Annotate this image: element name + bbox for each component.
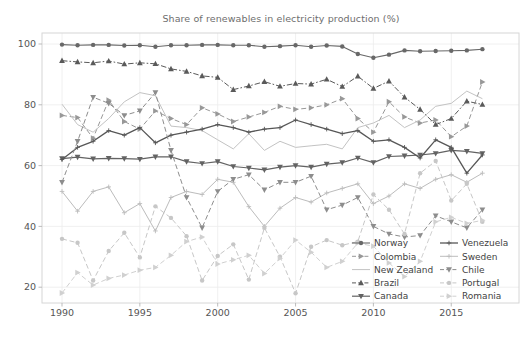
data-point	[247, 114, 252, 120]
data-point	[59, 180, 65, 185]
data-point	[479, 101, 485, 106]
data-point	[418, 258, 423, 264]
series-line	[62, 217, 482, 293]
data-point	[448, 220, 454, 225]
data-point	[402, 94, 408, 99]
series-line	[62, 173, 482, 231]
data-point	[184, 239, 189, 245]
legend-label: Brazil	[374, 278, 399, 288]
data-point	[59, 58, 65, 63]
data-point	[402, 114, 407, 120]
data-point	[324, 102, 329, 108]
series-venezuela	[60, 118, 485, 176]
data-point	[200, 43, 204, 47]
data-point	[387, 207, 391, 211]
data-point	[247, 277, 251, 281]
data-point	[309, 245, 313, 249]
data-point	[359, 253, 364, 259]
data-point	[75, 241, 79, 245]
data-point	[169, 195, 174, 200]
legend-item-chile: Chile	[440, 265, 485, 275]
series-brazil	[59, 58, 485, 127]
data-point	[200, 234, 205, 240]
data-point	[122, 119, 127, 125]
data-point	[121, 113, 127, 118]
data-point	[153, 204, 157, 208]
data-point	[340, 131, 345, 136]
x-tick-label: 2015	[439, 307, 463, 318]
data-point	[75, 43, 79, 47]
data-point	[107, 43, 111, 47]
data-point	[480, 47, 484, 51]
data-point	[91, 43, 95, 47]
data-point	[371, 55, 375, 59]
data-point	[308, 165, 314, 170]
data-point	[184, 195, 190, 200]
data-point	[231, 125, 236, 130]
data-point	[418, 171, 422, 175]
data-point	[402, 48, 406, 52]
data-point	[293, 106, 298, 112]
data-point	[169, 116, 174, 122]
data-point	[231, 242, 235, 246]
data-point	[293, 118, 298, 123]
data-point	[106, 185, 111, 190]
data-point	[309, 105, 314, 111]
data-point	[293, 80, 299, 85]
data-point	[199, 226, 205, 231]
legend-item-new-zealand: New Zealand	[352, 265, 433, 275]
legend-item-venezuela: Venezuela	[440, 238, 508, 248]
x-tick-label: 1990	[50, 307, 74, 318]
legend-label: Venezuela	[462, 238, 508, 248]
data-point	[169, 43, 173, 47]
legend-label: Sweden	[462, 252, 498, 262]
data-point	[106, 275, 111, 281]
data-point	[231, 257, 236, 263]
data-point	[90, 60, 96, 65]
data-point	[122, 43, 126, 47]
data-point	[215, 189, 221, 194]
data-point	[168, 148, 174, 153]
data-point	[387, 52, 391, 56]
legend-item-colombia: Colombia	[352, 252, 416, 262]
data-point	[200, 278, 204, 282]
legend-label: Portugal	[462, 278, 499, 288]
data-point	[184, 130, 189, 135]
data-point	[60, 113, 65, 119]
data-point	[215, 111, 220, 117]
chart-canvas: 19901995200020052010201520406080100Norwa…	[0, 0, 532, 347]
data-point	[75, 270, 80, 276]
data-point	[169, 216, 173, 220]
data-point	[324, 76, 330, 81]
data-point	[449, 214, 454, 220]
data-point	[231, 43, 235, 47]
data-point	[107, 249, 111, 253]
data-point	[464, 98, 470, 103]
data-point	[278, 44, 282, 48]
data-point	[386, 78, 392, 83]
data-point	[60, 290, 65, 296]
data-point	[277, 180, 283, 185]
legend-label: New Zealand	[374, 265, 433, 275]
data-point	[184, 43, 188, 47]
axis-ticks: 19901995200020052010201520406080100	[18, 38, 463, 318]
data-point	[153, 229, 158, 234]
data-point	[262, 188, 268, 193]
data-point	[464, 226, 470, 231]
legend-item-sweden: Sweden	[440, 252, 498, 262]
data-point	[309, 200, 314, 205]
data-point	[215, 261, 220, 267]
data-point	[417, 233, 423, 238]
data-point	[480, 79, 485, 85]
data-point	[184, 234, 188, 238]
data-point	[138, 255, 142, 259]
data-point	[90, 95, 96, 100]
data-point	[247, 252, 252, 258]
data-point	[447, 241, 452, 246]
data-point	[122, 272, 127, 278]
legend-item-brazil: Brazil	[352, 278, 399, 288]
data-point	[293, 237, 298, 243]
data-point	[169, 133, 174, 138]
data-point	[340, 44, 344, 48]
data-point	[215, 122, 220, 127]
